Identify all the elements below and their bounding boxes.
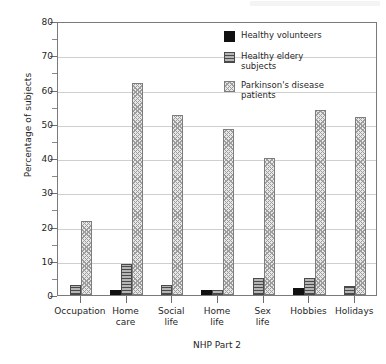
bar (223, 129, 234, 295)
bar (355, 117, 366, 295)
y-tick-label: 80 (13, 17, 53, 27)
y-tick-label: 10 (13, 257, 53, 267)
bar (253, 278, 264, 295)
bar (212, 290, 223, 295)
bar (315, 110, 326, 295)
y-tick-label: 30 (13, 188, 53, 198)
bar (81, 221, 92, 295)
legend-item-healthy-elderly-subjects: Healthy eldery subjects (224, 51, 374, 71)
x-tick (263, 296, 264, 303)
legend-swatch-healthy-elderly-subjects (224, 52, 235, 63)
legend-swatch-healthy-volunteers (224, 31, 235, 42)
bar (344, 286, 355, 295)
bar (70, 285, 81, 295)
y-tick-label: 0 (13, 291, 53, 301)
legend-item-healthy-volunteers: Healthy volunteers (224, 30, 374, 42)
x-axis-title: NHP Part 2 (57, 340, 377, 350)
legend-item-parkinsons-disease-patients: Parkinson's disease patients (224, 80, 374, 100)
bar-group (149, 23, 195, 295)
bar (110, 290, 121, 295)
x-tick (126, 296, 127, 303)
bar (293, 288, 304, 295)
legend-swatch-parkinsons-disease-patients (224, 81, 235, 92)
y-tick-label: 20 (13, 223, 53, 233)
legend-label-healthy-elderly-subjects: Healthy eldery subjects (241, 51, 303, 71)
bar (264, 158, 275, 295)
bar (304, 278, 315, 295)
bar (161, 285, 172, 295)
top-scan-artifact (250, 1, 380, 6)
bar (201, 290, 212, 295)
x-tick-label: Holidays (318, 306, 386, 317)
y-tick-label: 50 (13, 120, 53, 130)
y-tick-label: 70 (13, 51, 53, 61)
legend: Healthy volunteers Healthy eldery subjec… (224, 30, 374, 109)
y-tick-label: 40 (13, 154, 53, 164)
legend-label-parkinsons-disease-patients: Parkinson's disease patients (241, 80, 324, 100)
bar (132, 83, 143, 295)
x-tick (80, 296, 81, 303)
bar (121, 264, 132, 295)
x-tick (354, 296, 355, 303)
x-tick (171, 296, 172, 303)
x-tick (308, 296, 309, 303)
bar-group (104, 23, 150, 295)
bar-group (58, 23, 104, 295)
bar (172, 115, 183, 295)
bar-chart: Percentage of subjects 01020304050607080… (0, 0, 386, 364)
y-tick-label: 60 (13, 86, 53, 96)
x-tick (217, 296, 218, 303)
legend-label-healthy-volunteers: Healthy volunteers (241, 30, 322, 40)
